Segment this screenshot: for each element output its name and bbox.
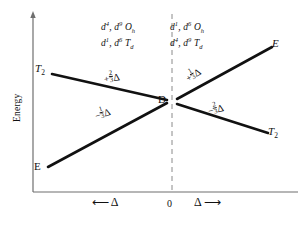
term-label-e-upper-right: E [272,38,279,52]
orgel-diagram-graphic [0,0,308,225]
term-symbol: E [34,160,41,172]
delta-symbol: Δ [112,71,120,83]
term-subscript: 2 [41,68,45,77]
right-arrow-icon: ⟶ [204,195,220,209]
y-axis-arrowhead [30,11,35,18]
config-symmetry-subscript: h [201,27,204,34]
config-label-right-bottom: d4, d9 Td [170,37,203,51]
term-label-e-lower-left: E [34,161,41,175]
config-exponent-2: 9 [188,36,191,43]
term-label-t2-lower-right: T2 [268,126,278,140]
x-axis-left-annotation: ⟵ Δ [92,196,118,208]
config-exponent-1: 4 [175,36,178,43]
figure-canvas: Energy T2 E E T2 D d4, d9 Oh d1, d6 Td d… [0,0,308,225]
center-term-label-d: D [158,94,166,105]
left-arrow-icon: ⟵ [92,195,108,209]
term-subscript: 2 [274,131,278,140]
config-exponent-1: 1 [175,20,178,27]
delta-symbol-right: Δ [194,195,202,209]
config-exponent-2: 9 [119,20,122,27]
x-axis-right-annotation: Δ ⟶ [194,196,220,208]
x-axis-zero-label: 0 [167,199,172,209]
config-exponent-2: 6 [119,36,122,43]
config-symmetry-subscript: d [199,43,202,50]
config-label-left-top: d4, d9 Oh [101,21,135,35]
y-axis-title: Energy [13,78,23,138]
config-symmetry-subscript: d [130,43,133,50]
term-symbol: E [272,37,279,49]
config-label-right-top: d1, d6 Oh [170,21,204,35]
config-symmetry-subscript: h [132,27,135,34]
config-exponent-1: 1 [106,36,109,43]
config-symmetry: O [194,22,201,32]
delta-symbol-left: Δ [111,195,119,209]
config-symmetry: O [125,22,132,32]
term-label-t2-upper-left: T2 [35,63,45,77]
slope-label-upper-left: +23Δ [103,69,120,85]
config-exponent-1: 4 [106,20,109,27]
config-label-left-bottom: d1, d6 Td [101,37,134,51]
config-exponent-2: 6 [188,20,191,27]
